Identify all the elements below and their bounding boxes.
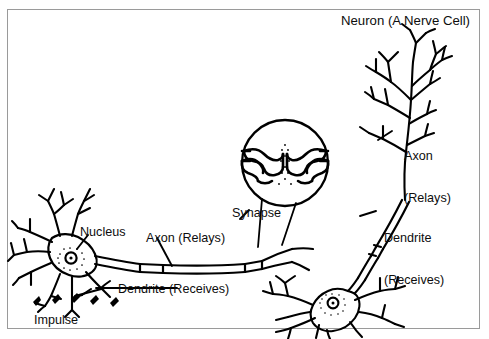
label-axon-right-line1: Axon (404, 149, 451, 163)
label-dendrite-right: Dendrite (Receives) (384, 203, 444, 316)
soma-left (48, 234, 96, 277)
label-axon-left: Axon (Relays) (146, 231, 225, 245)
axon-left (95, 248, 313, 273)
neurotransmitter-dots (278, 144, 292, 185)
label-synapse: Synapse (232, 206, 281, 220)
label-impulse: Impulse (34, 313, 78, 327)
diagram-canvas: Neuron (A Nerve Cell) Axon (Relays) Dend… (0, 0, 489, 339)
label-dendrite-left: Dendrite (Receives) (118, 282, 229, 296)
label-dendrite-right-line1: Dendrite (384, 231, 444, 245)
page-title: Neuron (A Nerve Cell) (341, 14, 470, 29)
label-dendrite-right-line2: (Receives) (384, 273, 444, 287)
synapse-magnifier-circle (242, 120, 328, 206)
label-nucleus: Nucleus (80, 225, 126, 239)
